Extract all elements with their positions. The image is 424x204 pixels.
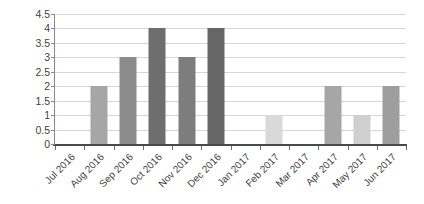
bar xyxy=(149,28,166,144)
y-tick-mark xyxy=(51,72,55,73)
bar-slot xyxy=(84,14,113,144)
y-tick-label: 3.5 xyxy=(4,38,50,49)
y-tick-label: 4.5 xyxy=(4,9,50,20)
bar xyxy=(266,115,283,144)
y-tick-mark xyxy=(51,130,55,131)
y-tick-label: 0 xyxy=(4,139,50,150)
bar xyxy=(90,86,107,144)
bar xyxy=(120,57,137,144)
bar-slot xyxy=(231,14,260,144)
bar-slot xyxy=(55,14,84,144)
y-tick-mark xyxy=(51,86,55,87)
plot-area xyxy=(55,14,406,144)
bar xyxy=(324,86,341,144)
y-tick-label: 1.5 xyxy=(4,95,50,106)
x-tick-mark xyxy=(406,146,407,150)
bar-slot xyxy=(260,14,289,144)
y-tick-mark xyxy=(51,101,55,102)
y-tick-mark xyxy=(51,43,55,44)
bar xyxy=(383,86,400,144)
bar-slot xyxy=(114,14,143,144)
y-tick-mark xyxy=(51,14,55,15)
y-tick-label: 2.5 xyxy=(4,67,50,78)
bar-slot xyxy=(377,14,406,144)
bar xyxy=(354,115,371,144)
y-tick-mark xyxy=(51,28,55,29)
y-tick-label: 3 xyxy=(4,52,50,63)
bar-slot xyxy=(318,14,347,144)
y-axis-line xyxy=(54,14,55,145)
bar-slot xyxy=(143,14,172,144)
y-tick-mark xyxy=(51,115,55,116)
bar-slot xyxy=(348,14,377,144)
bar-chart: 00.511.522.533.544.5 Jul 2016Aug 2016Sep… xyxy=(0,0,424,204)
y-tick-label: 0.5 xyxy=(4,124,50,135)
bar-slot xyxy=(172,14,201,144)
y-tick-mark xyxy=(51,57,55,58)
y-axis-labels: 00.511.522.533.544.5 xyxy=(0,14,50,144)
y-tick-label: 2 xyxy=(4,81,50,92)
bar xyxy=(207,28,224,144)
y-tick-label: 1 xyxy=(4,110,50,121)
bar-slot xyxy=(289,14,318,144)
x-axis-labels: Jul 2016Aug 2016Sep 2016Oct 2016Nov 2016… xyxy=(55,150,406,202)
y-tick-label: 4 xyxy=(4,23,50,34)
y-tick-mark xyxy=(51,144,55,145)
bar xyxy=(178,57,195,144)
bar-slot xyxy=(201,14,230,144)
